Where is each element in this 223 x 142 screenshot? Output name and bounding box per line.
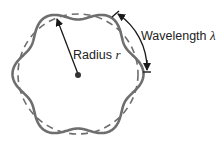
- radius-symbol: r: [115, 47, 120, 62]
- standing-wave-diagram: [0, 0, 223, 142]
- radius-label: Radius r: [73, 48, 120, 62]
- wavelength-symbol: λ: [210, 28, 216, 43]
- wavelength-label-text: Wavelength: [141, 29, 207, 43]
- wavelength-label: Wavelength λ: [141, 29, 216, 43]
- center-dot: [75, 72, 81, 78]
- radius-arrow: [57, 19, 78, 74]
- wavelength-tick-top: [112, 11, 119, 17]
- radius-label-text: Radius: [73, 48, 112, 62]
